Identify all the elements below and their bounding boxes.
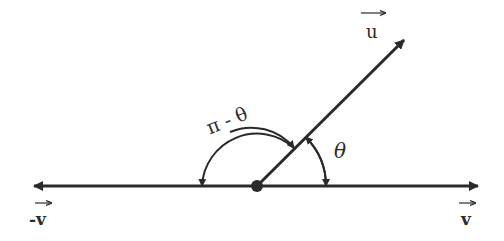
theta-label: θ <box>334 139 346 163</box>
u-label-text: u <box>366 21 378 42</box>
origin-point <box>251 180 263 192</box>
diagram-svg: u v -v θ π - θ <box>0 0 504 241</box>
label-u: u <box>361 13 385 42</box>
pi-minus-theta-arc <box>202 128 294 186</box>
pi-minus-theta-label: π - θ <box>203 102 251 138</box>
v-label-text: v <box>460 209 472 229</box>
vector-u-arrow <box>257 40 404 186</box>
label-neg-v: -v <box>29 203 51 229</box>
theta-arc <box>306 137 326 186</box>
label-v: v <box>459 203 475 229</box>
vector-angle-diagram: u v -v θ π - θ <box>0 0 504 241</box>
neg-v-label-text: -v <box>29 209 47 229</box>
